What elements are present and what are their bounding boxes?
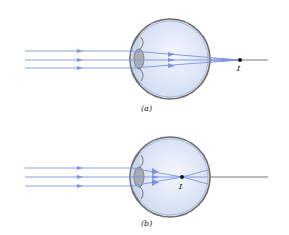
panel-a: I (a) [25, 19, 268, 113]
eye-focus-diagram: I (a) [0, 0, 289, 235]
focus-point [180, 175, 184, 179]
focus-point [238, 58, 242, 62]
panel-b: I (b) [25, 137, 268, 228]
panel-caption: (a) [141, 104, 152, 113]
image-label: I [236, 64, 241, 73]
panel-caption: (b) [141, 219, 152, 228]
